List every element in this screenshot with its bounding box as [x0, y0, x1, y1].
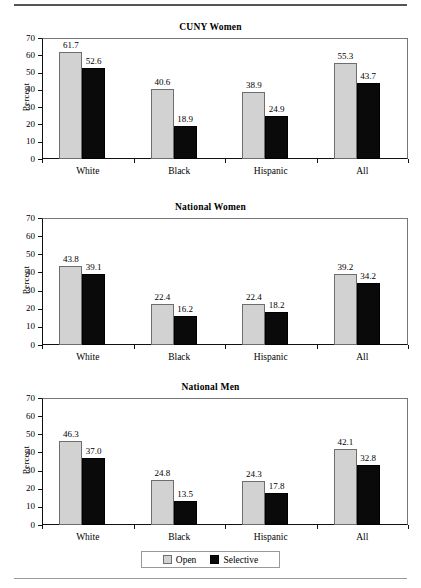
y-axis-tick-mark — [38, 236, 42, 237]
y-axis-tick-mark — [38, 107, 42, 108]
y-axis-tick-mark — [38, 38, 42, 39]
chart-title: National Women — [0, 202, 421, 212]
y-axis-tick-label: 40 — [14, 85, 35, 94]
bar-value-label: 17.8 — [259, 482, 294, 491]
bar-value-label: 37.0 — [76, 447, 111, 456]
bar — [242, 304, 265, 345]
y-axis-tick-label: 50 — [14, 250, 35, 259]
y-axis-tick-label: 0 — [14, 521, 35, 530]
bar-value-label: 22.4 — [145, 293, 180, 302]
x-axis-tick-mark — [317, 345, 318, 349]
y-axis-tick-mark — [38, 142, 42, 143]
y-axis-tick-label: 60 — [14, 412, 35, 421]
y-axis-tick-label: 40 — [14, 268, 35, 277]
y-axis-tick-mark — [38, 434, 42, 435]
x-axis-tick-mark — [317, 525, 318, 529]
bar — [59, 52, 82, 159]
chart-title: National Men — [0, 382, 421, 392]
x-axis-tick-mark — [134, 159, 135, 163]
bar — [82, 274, 105, 345]
legend-entry: Open — [163, 555, 197, 565]
legend-swatch-open — [163, 555, 172, 564]
bar — [174, 316, 197, 345]
y-axis-tick-mark — [38, 471, 42, 472]
bar-value-label: 16.2 — [168, 305, 203, 314]
bar-value-label: 18.9 — [168, 115, 203, 124]
y-axis-tick-label: 20 — [14, 120, 35, 129]
x-axis-tick-label: All — [317, 166, 409, 176]
bar-value-label: 46.3 — [53, 430, 88, 439]
x-axis-tick-mark — [134, 345, 135, 349]
bar-value-label: 52.6 — [76, 57, 111, 66]
y-axis-tick-mark — [38, 398, 42, 399]
y-axis-tick-mark — [38, 55, 42, 56]
legend-label: Selective — [223, 555, 258, 565]
x-axis-tick-label: Black — [134, 532, 226, 542]
y-axis-tick-label: 60 — [14, 51, 35, 60]
x-axis-tick-label: Hispanic — [225, 166, 317, 176]
bar-value-label: 24.3 — [236, 470, 271, 479]
y-axis-tick-mark — [38, 218, 42, 219]
bar — [265, 116, 288, 159]
bar-value-label: 24.8 — [145, 469, 180, 478]
bar — [334, 274, 357, 345]
y-axis-tick-label: 30 — [14, 286, 35, 295]
x-axis-tick-mark — [225, 345, 226, 349]
y-axis-tick-label: 70 — [14, 214, 35, 223]
x-axis-tick-label: All — [317, 352, 409, 362]
x-axis-tick-label: White — [42, 532, 134, 542]
y-axis-tick-mark — [38, 452, 42, 453]
y-axis-tick-mark — [38, 507, 42, 508]
page-top-rule — [14, 4, 407, 6]
bar — [82, 68, 105, 159]
bar — [357, 283, 380, 345]
y-axis-tick-mark — [38, 489, 42, 490]
y-axis-tick-label: 40 — [14, 448, 35, 457]
y-axis-tick-mark — [38, 291, 42, 292]
bar-value-label: 38.9 — [236, 81, 271, 90]
bar — [357, 465, 380, 525]
y-axis-tick-mark — [38, 416, 42, 417]
bar-value-label: 55.3 — [328, 52, 363, 61]
chart-title: CUNY Women — [0, 22, 421, 32]
x-axis-tick-mark — [134, 525, 135, 529]
bar — [265, 312, 288, 345]
y-axis-tick-label: 30 — [14, 466, 35, 475]
y-axis-tick-label: 70 — [14, 394, 35, 403]
bar — [242, 92, 265, 159]
bar — [174, 501, 197, 525]
legend-label: Open — [176, 555, 197, 565]
x-axis-tick-label: Hispanic — [225, 532, 317, 542]
y-axis-tick-label: 50 — [14, 430, 35, 439]
x-axis-tick-mark — [225, 525, 226, 529]
x-axis-tick-label: Hispanic — [225, 352, 317, 362]
bar-value-label: 61.7 — [53, 41, 88, 50]
y-axis-tick-label: 20 — [14, 304, 35, 313]
y-axis-tick-mark — [38, 327, 42, 328]
x-axis-tick-label: Black — [134, 352, 226, 362]
y-axis-tick-label: 30 — [14, 103, 35, 112]
bar — [82, 458, 105, 525]
x-axis-tick-label: Black — [134, 166, 226, 176]
bar — [151, 480, 174, 525]
bar-value-label: 40.6 — [145, 78, 180, 87]
bar-value-label: 24.9 — [259, 105, 294, 114]
x-axis-tick-mark — [42, 345, 43, 349]
y-axis-tick-mark — [38, 73, 42, 74]
y-axis-tick-mark — [38, 309, 42, 310]
bar — [59, 266, 82, 345]
y-axis-tick-label: 10 — [14, 322, 35, 331]
x-axis-tick-mark — [408, 345, 409, 349]
y-axis-tick-label: 10 — [14, 502, 35, 511]
bar-value-label: 18.2 — [259, 301, 294, 310]
bar — [265, 493, 288, 525]
x-axis-tick-mark — [408, 159, 409, 163]
page-bottom-rule — [14, 578, 407, 579]
legend-entry: Selective — [210, 555, 258, 565]
bar-value-label: 39.2 — [328, 263, 363, 272]
y-axis-tick-mark — [38, 272, 42, 273]
bar-value-label: 32.8 — [351, 454, 386, 463]
y-axis-tick-label: 60 — [14, 232, 35, 241]
x-axis-tick-label: White — [42, 352, 134, 362]
bar-value-label: 42.1 — [328, 438, 363, 447]
